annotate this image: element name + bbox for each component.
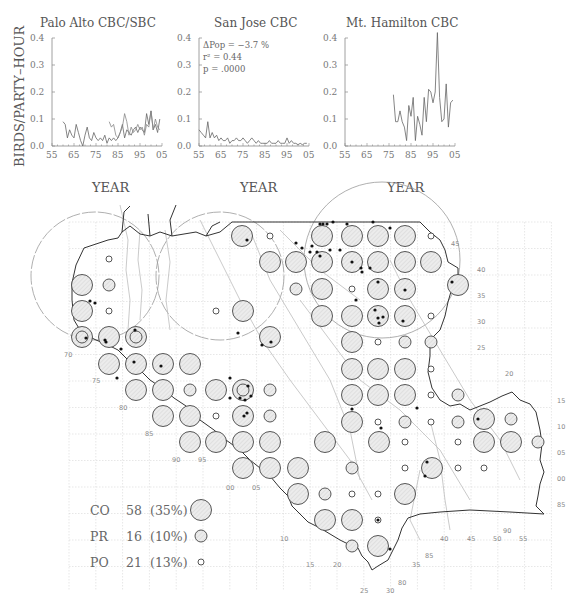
y-tick-label: 0.0 — [323, 141, 338, 151]
block-circle-co — [260, 458, 281, 479]
observation-dot — [376, 280, 379, 283]
block-circle-pr — [399, 336, 411, 348]
grid-label: 40 — [440, 535, 448, 543]
grid-label: 90 — [503, 527, 511, 535]
block-circle-co — [99, 327, 120, 348]
block-circle-co — [260, 432, 281, 453]
observation-dot — [159, 364, 162, 367]
x-tick-label: 55 — [46, 150, 58, 160]
block-circle-po — [267, 233, 273, 239]
observation-dot — [132, 360, 135, 363]
grid-label: 10 — [557, 423, 565, 431]
block-circle-co — [260, 252, 281, 273]
observation-dot — [321, 222, 324, 225]
grid-label: 20 — [333, 561, 341, 569]
observation-dot — [350, 407, 353, 410]
legend-row-possible: PO 21 (13%) — [90, 555, 210, 570]
data-series-line — [393, 33, 452, 141]
block-circle-co — [312, 279, 333, 300]
block-circle-pr — [425, 336, 437, 348]
block-circle-pr — [184, 384, 196, 396]
y-tick-label: 0.0 — [177, 141, 192, 151]
chart-title-palo-alto: Palo Alto CBC/SBC — [40, 16, 156, 30]
observation-dot — [403, 288, 406, 291]
grid-label: 30 — [386, 587, 394, 595]
block-circle-co — [286, 252, 307, 273]
y-tick-label: 0.0 — [30, 141, 45, 151]
block-circle-pr — [452, 416, 464, 428]
y-tick-label: 0.2 — [323, 87, 337, 97]
chart-title-san-jose: San Jose CBC — [214, 16, 297, 30]
block-circle-co — [232, 226, 253, 247]
legend-percent: (13%) — [150, 555, 210, 570]
block-circle-co — [369, 432, 390, 453]
observation-dot — [425, 460, 428, 463]
legend-code: CO — [90, 503, 120, 518]
observation-dot — [388, 547, 391, 550]
line-charts: 0.00.10.20.30.45565758595050.00.10.20.30… — [30, 33, 461, 160]
data-series-line — [63, 111, 160, 146]
grid-label: 10 — [280, 535, 288, 543]
block-circle-co — [315, 510, 336, 531]
block-circle-co — [395, 484, 416, 505]
chart-panel-1: 0.00.10.20.30.4556575859505 — [30, 33, 168, 160]
observation-dot — [238, 396, 241, 399]
block-circle-co — [395, 359, 416, 380]
block-circle-co — [288, 484, 309, 505]
observation-dot — [246, 384, 249, 387]
san-jose-count-circle — [156, 212, 284, 340]
block-circle-po — [213, 413, 219, 419]
x-tick-label: 05 — [156, 150, 168, 160]
block-circle-po — [481, 465, 487, 471]
observation-dot — [328, 248, 331, 251]
block-circle-co — [99, 354, 120, 375]
y-axis-label: BIRDS/PARTY–HOUR — [12, 25, 27, 167]
observation-dot — [401, 319, 404, 322]
grid-label: 85 — [557, 501, 565, 509]
grid-label: 85 — [145, 430, 153, 438]
block-circle-po — [375, 339, 381, 345]
chart-panel-3: 0.00.10.20.30.4556575859505 — [323, 33, 461, 160]
block-circle-pr — [399, 416, 411, 428]
x-tick-label: 75 — [90, 150, 102, 160]
block-circle-co — [206, 432, 227, 453]
stat-delta-pop: ΔPop = −3.7 % — [203, 40, 269, 50]
block-circle-co — [395, 306, 416, 327]
block-circle-co — [72, 275, 93, 296]
y-tick-label: 0.1 — [177, 114, 191, 124]
grid-label: 15 — [557, 397, 565, 405]
grid-label: 95 — [198, 456, 206, 464]
figure: BIRDS/PARTY–HOUR Palo Alto CBC/SBC San J… — [0, 0, 577, 616]
observation-dot — [228, 396, 231, 399]
observation-dot — [88, 299, 91, 302]
observation-dot — [331, 220, 334, 223]
stat-r-squared: r² = 0.44 — [203, 52, 242, 62]
block-circle-pr — [264, 410, 276, 422]
x-axis-label-1: YEAR — [91, 180, 130, 195]
observation-dot — [376, 518, 379, 521]
block-circle-pr — [346, 462, 358, 474]
x-tick-label: 55 — [193, 150, 205, 160]
x-tick-label: 55 — [339, 150, 351, 160]
block-circle-pr — [103, 279, 115, 291]
block-circle-co — [368, 536, 389, 557]
y-tick-label: 0.1 — [323, 114, 337, 124]
block-circle-po — [213, 308, 219, 314]
grid-label: 70 — [64, 351, 72, 359]
observation-dot — [242, 414, 245, 417]
x-tick-label: 05 — [449, 150, 461, 160]
block-circle-po — [402, 439, 408, 445]
block-circle-co — [342, 306, 363, 327]
x-axis-label-2: YEAR — [239, 180, 278, 195]
block-circle-co — [153, 380, 174, 401]
observation-dot — [315, 250, 318, 253]
observation-dot — [423, 474, 426, 477]
block-circle-co — [342, 385, 363, 406]
observation-dot — [228, 376, 231, 379]
grid-label: 20 — [505, 370, 513, 378]
observation-dot — [243, 398, 246, 401]
observation-dot — [104, 340, 107, 343]
block-circle-po — [428, 419, 434, 425]
legend-percent: (35%) — [150, 503, 210, 518]
observation-dot — [359, 266, 362, 269]
